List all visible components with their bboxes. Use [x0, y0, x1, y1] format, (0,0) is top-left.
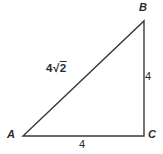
hypotenuse-coefficient-radical: 4√	[46, 62, 60, 74]
vertex-label-a: A	[7, 129, 15, 140]
side-label-hypotenuse-ab: 4√2	[46, 63, 67, 75]
vertex-label-c: C	[148, 129, 156, 140]
side-label-ac: 4	[79, 139, 85, 150]
triangle-outline	[23, 21, 144, 136]
vertex-label-b: B	[139, 2, 147, 13]
side-label-bc: 4	[145, 71, 151, 82]
hypotenuse-radicand: 2	[60, 62, 67, 74]
right-triangle-diagram: B A C 4√2 4 4	[0, 0, 163, 154]
triangle-figure	[0, 0, 163, 154]
